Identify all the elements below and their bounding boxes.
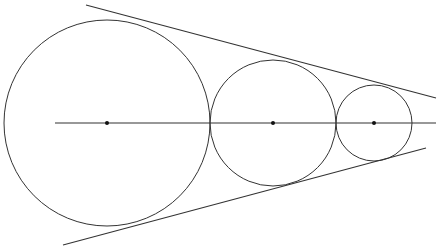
lower-tangent-line bbox=[63, 148, 426, 245]
medium-circle-center-dot bbox=[271, 121, 275, 125]
diagram-canvas bbox=[0, 0, 440, 250]
upper-tangent-line bbox=[86, 5, 436, 98]
large-circle-center-dot bbox=[105, 121, 109, 125]
small-circle-center-dot bbox=[372, 121, 376, 125]
tangent-circles-diagram bbox=[0, 0, 440, 250]
